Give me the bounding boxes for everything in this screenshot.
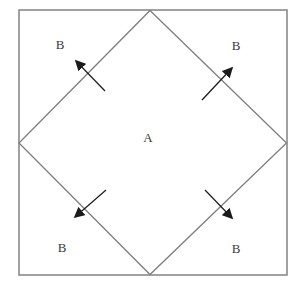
diagram-canvas: A B B B B	[0, 0, 292, 290]
arrow-top-left	[76, 61, 105, 91]
label-region-b-top-left: B	[56, 37, 65, 52]
arrow-top-right	[202, 68, 232, 100]
label-region-a-center: A	[143, 130, 153, 145]
label-region-b-bottom-left: B	[58, 240, 67, 255]
arrow-bottom-right	[205, 190, 232, 218]
square-diamond-figure: A B B B B	[0, 0, 292, 290]
label-region-b-top-right: B	[232, 38, 241, 53]
label-region-b-bottom-right: B	[232, 241, 241, 256]
